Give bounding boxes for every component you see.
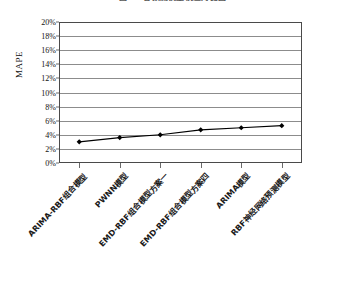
y-tick-label: 10% — [41, 88, 56, 97]
x-axis-category-labels: ARIMA-RBF组合模型PWNN模型EMD-RBF组合模型方案一EMD-RBF… — [0, 168, 345, 278]
x-category-label: PWNN模型 — [92, 170, 130, 210]
y-tick-label: 18% — [41, 32, 56, 41]
y-tick-label: 20% — [41, 18, 56, 27]
chart-title: 图 5-2 各预测模型误差对比图 — [0, 0, 345, 1]
x-category-label: ARIMA-RBF组合模型 — [25, 170, 89, 238]
y-tick-label: 6% — [45, 116, 56, 125]
y-tick-label: 16% — [41, 46, 56, 55]
y-tick-label: 0% — [45, 159, 56, 168]
data-point-marker — [198, 127, 203, 132]
x-category-label: EMD-RBF组合模型方案四 — [137, 170, 211, 249]
y-axis-tick-labels: 20%18%16%14%12%10%8%6%4%2%0% — [28, 22, 56, 163]
data-series-line — [59, 22, 302, 163]
y-tick-label: 2% — [45, 144, 56, 153]
y-tick-label: 12% — [41, 74, 56, 83]
y-tick-label: 8% — [45, 102, 56, 111]
data-point-marker — [279, 123, 284, 128]
data-point-marker — [77, 139, 82, 144]
series-polyline — [79, 126, 282, 142]
x-category-label: EMD-RBF组合模型方案一 — [96, 170, 170, 249]
data-point-marker — [158, 132, 163, 137]
chart-figure: 图 5-2 各预测模型误差对比图 MAPE 20%18%16%14%12%10%… — [0, 0, 345, 282]
data-point-marker — [239, 125, 244, 130]
x-category-label: ARIMA模型 — [213, 170, 252, 211]
y-tick-label: 14% — [41, 60, 56, 69]
y-tick-label: 4% — [45, 130, 56, 139]
data-point-marker — [117, 135, 122, 140]
y-axis-title: MAPE — [14, 51, 24, 78]
